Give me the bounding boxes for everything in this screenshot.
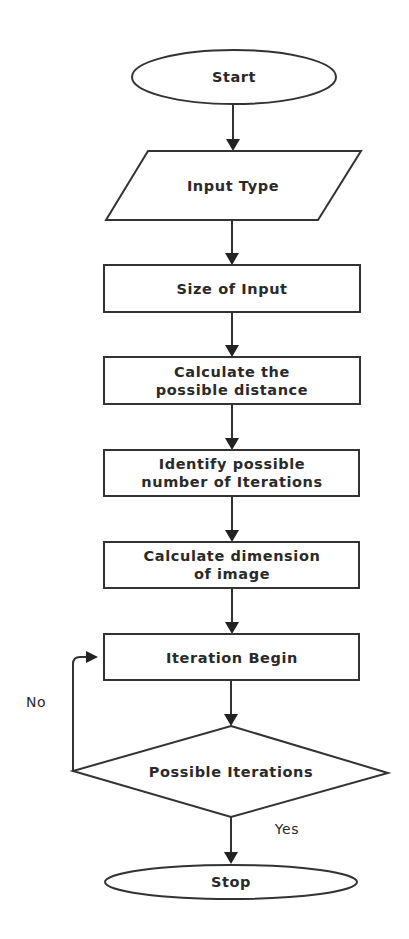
size-of-input-label: Size of Input [176,281,287,297]
arrow-down-icon [224,714,238,726]
edge-input-type-to-size [225,220,239,265]
node-size-of-input: Size of Input [104,265,360,312]
node-input-type: Input Type [106,151,361,220]
identify-iterations-label-line1: Identify possible [159,456,306,472]
edge-size-to-calc-distance [225,312,239,357]
node-calc-distance: Calculate the possible distance [104,357,360,404]
node-calc-dimension: Calculate dimension of image [104,542,359,588]
node-identify-iterations: Identify possible number of Iterations [104,450,359,496]
arrow-down-icon [225,438,239,450]
no-label: No [26,694,46,710]
node-possible-iterations: Possible Iterations [73,726,388,817]
input-type-label: Input Type [187,178,279,194]
calc-distance-label-line2: possible distance [156,382,308,398]
calc-dimension-label-line1: Calculate dimension [144,548,321,564]
arrow-down-icon [225,253,239,265]
arrow-down-icon [224,852,238,864]
edge-start-to-input-type [226,104,240,151]
arrow-down-icon [225,530,239,542]
start-label: Start [212,69,256,85]
edge-calc-distance-to-identify [225,404,239,450]
stop-label: Stop [211,874,251,890]
possible-iterations-label: Possible Iterations [149,764,313,780]
edge-no-loop: No [26,651,98,771]
arrow-right-icon [86,651,98,663]
arrow-down-icon [225,622,239,634]
calc-dimension-label-line2: of image [194,566,270,582]
flowchart: Start Input Type Size of Input Calculate… [0,0,409,939]
arrow-down-icon [225,345,239,357]
node-start: Start [132,50,336,104]
node-iteration-begin: Iteration Begin [104,634,359,680]
yes-label: Yes [274,821,299,837]
edge-calc-dimension-to-iteration-begin [225,588,239,634]
edge-iteration-begin-to-decision [224,680,238,726]
arrow-down-icon [226,139,240,151]
node-stop: Stop [105,865,357,899]
iteration-begin-label: Iteration Begin [166,650,298,666]
identify-iterations-label-line2: number of Iterations [141,474,322,490]
edge-yes: Yes [224,817,299,864]
edge-identify-to-calc-dimension [225,496,239,542]
calc-distance-label-line1: Calculate the [174,364,290,380]
